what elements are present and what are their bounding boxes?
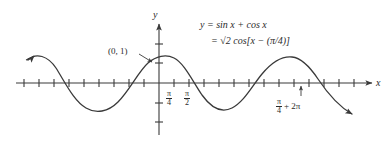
tick-label-pi-over-4-plus-2pi: π 4 + 2π	[276, 98, 300, 116]
tick-label-pi-over-2: π 2	[184, 90, 190, 108]
tick-label-pi-over-4-denominator: 4	[166, 99, 172, 107]
equation-annotation: y = sin x + cos x = √2 cos[x − (π/4)]	[200, 20, 290, 52]
sine-cosine-graph-figure: y x (0, 1) y = sin x + cos x = √2 cos[x …	[0, 0, 391, 151]
tick-label-pi-over-2-denominator: 2	[184, 99, 190, 107]
equation-line-2: = √2 cos[x − (π/4)]	[200, 36, 290, 52]
tick-label-pi-over-4: π 4	[166, 90, 172, 108]
tick-label-right-tail: + 2π	[282, 102, 300, 111]
point-callout-arrow	[139, 54, 152, 62]
point-label-origin-one: (0, 1)	[108, 47, 128, 56]
equation-line-1: y = sin x + cos x	[200, 20, 290, 36]
axis-label-x: x	[376, 78, 380, 88]
axis-label-y: y	[153, 10, 157, 20]
graph-canvas	[0, 0, 391, 151]
